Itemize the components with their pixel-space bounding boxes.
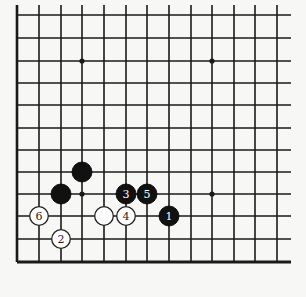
move-number: 3: [123, 188, 130, 201]
grid-lines: [17, 5, 291, 262]
go-board: 356412: [0, 0, 306, 297]
star-point: [209, 58, 214, 63]
black-stone-5: 5: [137, 184, 157, 204]
black-stone-1: 1: [159, 206, 179, 226]
move-number: 5: [144, 188, 151, 201]
black-stone: [51, 184, 71, 204]
move-number: 4: [123, 210, 130, 223]
move-number: 2: [58, 233, 65, 246]
stone-body: [51, 184, 71, 204]
white-stone-2: 2: [52, 230, 71, 249]
white-stone: [95, 207, 114, 226]
black-stone-3: 3: [116, 184, 136, 204]
black-stone: [72, 162, 92, 182]
stone-body: [72, 162, 92, 182]
white-stone-6: 6: [30, 207, 49, 226]
star-point: [79, 191, 84, 196]
star-point: [79, 58, 84, 63]
stone-body: [95, 207, 114, 226]
move-number: 6: [36, 210, 43, 223]
white-stone-4: 4: [117, 207, 136, 226]
move-number: 1: [166, 210, 173, 223]
star-point: [209, 191, 214, 196]
